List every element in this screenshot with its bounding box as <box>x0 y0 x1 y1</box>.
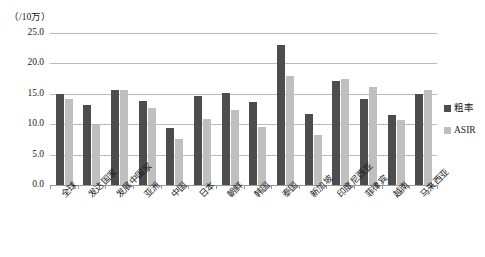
x-tick <box>437 185 438 189</box>
legend-swatch-icon <box>444 105 451 112</box>
chart-legend: 粗率ASIR <box>444 104 476 147</box>
x-tick <box>271 185 272 189</box>
x-tick <box>299 185 300 189</box>
x-label-泰国: 泰国 <box>279 178 301 200</box>
x-label-亚洲: 亚洲 <box>141 178 163 200</box>
legend-item-asir[interactable]: ASIR <box>444 126 476 136</box>
x-label-日本: 日本 <box>196 178 218 200</box>
x-tick <box>105 185 106 189</box>
x-tick <box>382 185 383 189</box>
legend-item-crude[interactable]: 粗率 <box>444 104 476 114</box>
legend-label: ASIR <box>454 126 476 136</box>
x-tick <box>409 185 410 189</box>
x-tick <box>133 185 134 189</box>
x-tick <box>216 185 217 189</box>
x-label-中国: 中国 <box>168 178 190 200</box>
x-label-朝鲜: 朝鲜 <box>224 178 246 200</box>
x-tick <box>188 185 189 189</box>
x-tick <box>78 185 79 189</box>
x-label-韩国: 韩国 <box>251 178 273 200</box>
legend-swatch-icon <box>444 127 451 134</box>
x-tick <box>244 185 245 189</box>
x-label-越南: 越南 <box>390 178 412 200</box>
x-tick <box>326 185 327 189</box>
chart-figure: （/10万） 0.05.010.015.020.025.0 全球发达国家发展中国… <box>0 0 485 257</box>
legend-label: 粗率 <box>454 104 474 114</box>
x-tick <box>50 185 51 189</box>
x-label-新加坡: 新加坡 <box>307 172 335 200</box>
x-tick <box>354 185 355 189</box>
x-label-马来西亚: 马来西亚 <box>417 166 452 201</box>
x-axis-category-labels: 全球发达国家发展中国家亚洲中国日本朝鲜韩国泰国新加坡印度尼西亚菲律宾越南马来西亚 <box>0 0 485 257</box>
x-label-发达国家: 发达国家 <box>85 166 120 201</box>
x-label-全球: 全球 <box>58 178 80 200</box>
x-tick <box>161 185 162 189</box>
